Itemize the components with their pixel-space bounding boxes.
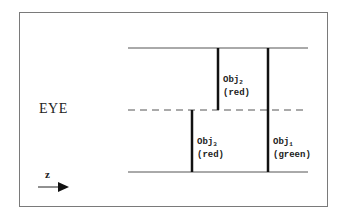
obj2-label: Obj2 (red) [223,75,250,99]
obj1-label: Obj1 (green) [273,137,311,161]
eye-label: EYE [39,101,68,117]
obj3-label: Obj3 (red) [197,137,224,161]
z-axis-label: z [45,168,50,180]
z-arrow-head [58,182,69,192]
